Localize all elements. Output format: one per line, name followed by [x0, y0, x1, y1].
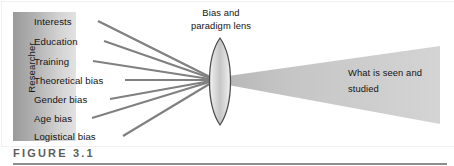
output-caption-line-1: What is seen and [348, 65, 446, 81]
figure-caption-footer: FIGURE 3.1 [0, 146, 454, 166]
ray-group [92, 21, 216, 136]
diagram-canvas: Researcher Interests Education Training … [0, 0, 454, 146]
source-label-interests: Interests [34, 17, 72, 27]
source-label-education: Education [34, 37, 78, 47]
source-label-theoretical-bias: Theoretical bias [34, 76, 103, 86]
ray-education [104, 41, 216, 80]
lens-caption-line-1: Bias and [169, 6, 273, 19]
figure-3-1: Researcher Interests Education Training … [0, 0, 454, 166]
source-label-logistical-bias: Logistical bias [34, 132, 96, 142]
lens-caption: Bias and paradigm lens [169, 6, 273, 32]
lens-caption-line-2: paradigm lens [169, 19, 273, 32]
source-label-age-bias: Age bias [34, 114, 72, 124]
output-caption-line-2: studied [348, 81, 446, 97]
lens-shape [210, 38, 231, 125]
output-caption: What is seen and studied [348, 65, 446, 97]
source-label-gender-bias: Gender bias [34, 95, 87, 105]
source-label-training: Training [34, 57, 69, 67]
figure-number: FIGURE 3.1 [13, 147, 95, 159]
figure-divider-rule [13, 163, 447, 165]
